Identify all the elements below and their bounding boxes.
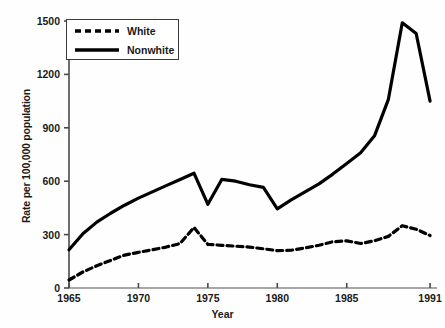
y-axis-tick-label: 600 (20, 175, 60, 187)
y-axis-tick-label-wrap: 300 (18, 235, 60, 236)
x-axis-tick-label: 1970 (108, 292, 168, 304)
legend-label-nonwhite: Nonwhite (127, 44, 174, 56)
legend-swatch-dashed (74, 26, 120, 36)
chart-figure: Rate per 100,000 population 030060090012… (0, 0, 445, 328)
x-axis-tick-label: 1965 (39, 292, 99, 304)
y-axis-tick-label: 900 (20, 122, 60, 134)
y-axis-tick-label: 1200 (20, 68, 60, 80)
y-axis-tick-label-wrap: 1200 (18, 74, 60, 75)
y-axis-tick-label-wrap: 1500 (18, 21, 60, 22)
y-axis-tick-label: 300 (20, 229, 60, 241)
x-axis-tick-label: 1975 (178, 292, 238, 304)
x-axis-title: Year (0, 308, 445, 320)
legend-entry-white: White (67, 21, 180, 41)
y-axis-tick-label-wrap: 900 (18, 128, 60, 129)
legend-label-white: White (127, 25, 156, 37)
data-series (69, 23, 430, 280)
y-axis-title: Rate per 100,000 population (20, 56, 32, 256)
y-axis-tick-label-wrap: 600 (18, 181, 60, 182)
x-axis-tick-label: 1991 (400, 292, 445, 304)
x-axis-tick-label: 1980 (247, 292, 307, 304)
legend: White Nonwhite (66, 19, 179, 60)
legend-swatch-solid (74, 45, 120, 55)
y-axis-tick-label: 1500 (20, 15, 60, 27)
y-axis-tick-label-wrap: 0 (18, 288, 60, 289)
x-axis-tick-label: 1985 (317, 292, 377, 304)
series-line-white (69, 226, 430, 280)
legend-entry-nonwhite: Nonwhite (67, 40, 180, 60)
